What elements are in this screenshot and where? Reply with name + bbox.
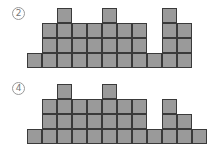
square-cell (102, 114, 117, 129)
square-cell (102, 84, 117, 99)
square-cell (102, 129, 117, 144)
square-cell (162, 99, 177, 114)
square-cell (177, 114, 192, 129)
square-cell (42, 114, 57, 129)
figure-label-4: 4 (12, 82, 25, 95)
square-cell (177, 129, 192, 144)
square-cell (72, 99, 87, 114)
square-cell (192, 129, 207, 144)
square-cell (42, 99, 57, 114)
square-cell (72, 114, 87, 129)
square-cell (87, 114, 102, 129)
square-cell (147, 129, 162, 144)
square-cell (117, 99, 132, 114)
square-cell (57, 84, 72, 99)
square-cell (117, 114, 132, 129)
square-cell (162, 129, 177, 144)
square-cell (132, 114, 147, 129)
square-cell (57, 129, 72, 144)
figure-4: 4 (0, 0, 216, 73)
square-cell (132, 99, 147, 114)
square-cell (42, 129, 57, 144)
square-cell (57, 114, 72, 129)
square-cell (162, 114, 177, 129)
square-cell (87, 99, 102, 114)
square-cell (57, 99, 72, 114)
square-cell (27, 129, 42, 144)
square-cell (117, 129, 132, 144)
square-cell (72, 129, 87, 144)
square-cell (132, 129, 147, 144)
square-cell (102, 99, 117, 114)
square-cell (87, 129, 102, 144)
